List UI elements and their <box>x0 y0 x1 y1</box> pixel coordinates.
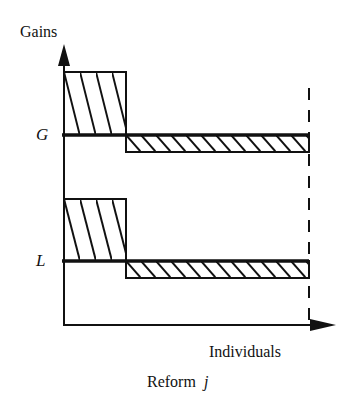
g-loss-strip <box>126 135 309 152</box>
panel-label-g: G <box>36 126 48 143</box>
x-axis-label: Individuals <box>209 344 281 360</box>
caption-prefix: Reform <box>147 373 196 390</box>
l-loss-strip <box>126 261 309 278</box>
reform-diagram <box>0 0 352 418</box>
caption: Reform j <box>147 374 208 390</box>
y-axis-label: Gains <box>20 24 57 40</box>
panel-l <box>62 199 309 278</box>
x-axis <box>63 319 336 331</box>
y-axis-arrow-icon <box>58 44 70 66</box>
g-gain-block <box>64 72 126 135</box>
panel-g <box>62 72 309 152</box>
caption-variable: j <box>204 373 208 390</box>
panel-label-l: L <box>36 252 45 269</box>
x-axis-arrow-icon <box>310 319 336 331</box>
l-gain-block <box>64 199 126 261</box>
